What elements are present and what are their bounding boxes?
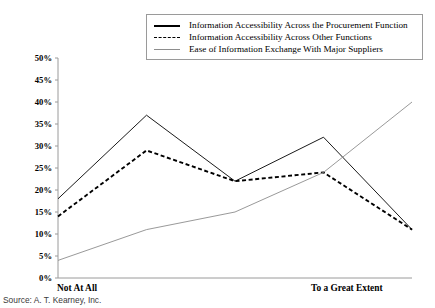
series-group [58,102,412,260]
y-axis-tick-25: 25% [26,164,52,173]
y-axis-tick-35: 35% [26,120,52,129]
y-axis-tick-15: 15% [26,208,52,217]
y-axis-tick-45: 45% [26,76,52,85]
axes-group [55,58,412,278]
y-axis-tick-50: 50% [26,54,52,63]
plot-area: 0%5%10%15%20%25%30%35%40%45%50% Not At A… [0,0,435,308]
plot-svg [0,0,435,308]
y-axis-tick-40: 40% [26,98,52,107]
chart-figure: Information Accessibility Across the Pro… [0,0,435,308]
y-axis-tick-20: 20% [26,186,52,195]
y-axis-tick-10: 10% [26,230,52,239]
series-line-1 [58,150,412,229]
y-axis-tick-5: 5% [26,252,52,261]
x-axis-label-right: To a Great Extent [311,283,383,294]
source-note: Source: A. T. Kearney, Inc. [3,295,101,305]
x-axis-label-left: Not At All [57,283,97,294]
y-axis-tick-0: 0% [26,274,52,283]
y-axis-tick-30: 30% [26,142,52,151]
